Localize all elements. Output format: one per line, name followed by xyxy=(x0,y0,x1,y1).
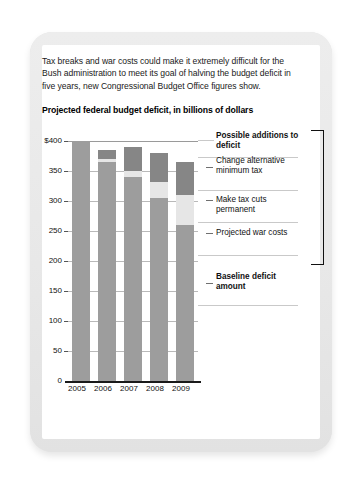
bar-2006-additions xyxy=(98,150,116,159)
y-tick-300 xyxy=(64,201,68,202)
chart-plot-area xyxy=(68,141,198,381)
leader-line-baseline xyxy=(206,283,213,284)
lede-paragraph: Tax breaks and war costs could make it e… xyxy=(42,55,304,92)
x-tick-label-2009: 2009 xyxy=(166,384,196,393)
y-tick-100 xyxy=(64,321,68,322)
bar-2008-tax-cuts xyxy=(150,182,168,198)
y-tick-label-150: 150 xyxy=(22,286,62,295)
bar-2008-baseline xyxy=(150,198,168,381)
bar-2009-tax-cuts xyxy=(176,195,194,225)
leader-line-war-costs xyxy=(206,233,213,234)
bar-2007-baseline xyxy=(124,177,142,381)
bar-2007 xyxy=(124,147,142,381)
bar-2007-tax-cuts xyxy=(124,171,142,177)
bar-2008-additions xyxy=(150,153,168,182)
y-tick-label-400: $400 xyxy=(22,136,62,145)
y-tick-label-50: 50 xyxy=(22,346,62,355)
y-tick-200 xyxy=(64,261,68,262)
separator-line-2 xyxy=(198,190,298,191)
x-axis-labels: 2005 2006 2007 2008 2009 xyxy=(62,384,208,398)
separator-line-4 xyxy=(198,255,298,256)
y-tick-label-0: 0 xyxy=(22,376,62,385)
bar-2006-tax-cuts xyxy=(98,159,116,162)
y-tick-50 xyxy=(64,351,68,352)
bar-2007-additions xyxy=(124,147,142,171)
bar-2008 xyxy=(150,153,168,381)
annotation-possible-additions: Possible additions to deficit xyxy=(216,131,302,151)
y-tick-label-250: 250 xyxy=(22,226,62,235)
chart-title: Projected federal budget deficit, in bil… xyxy=(42,105,304,115)
y-axis-labels: $400 350 300 250 200 150 100 50 0 xyxy=(22,141,62,381)
annotation-change-amt: Change alternative minimum tax xyxy=(216,156,298,176)
annotation-war-costs: Projected war costs xyxy=(216,228,298,238)
y-tick-150 xyxy=(64,291,68,292)
y-tick-400 xyxy=(64,141,68,142)
additions-bracket xyxy=(311,130,324,265)
y-tick-350 xyxy=(64,171,68,172)
leader-line-possible-additions xyxy=(198,140,214,141)
bar-2005-baseline xyxy=(72,141,90,381)
y-tick-label-350: 350 xyxy=(22,166,62,175)
x-axis-line xyxy=(65,381,201,383)
y-tick-250 xyxy=(64,231,68,232)
y-tick-label-200: 200 xyxy=(22,256,62,265)
separator-line-3 xyxy=(198,222,298,223)
separator-line-5 xyxy=(198,305,298,306)
bar-2006 xyxy=(98,150,116,381)
leader-line-tax-cuts xyxy=(206,200,213,201)
annotation-tax-cuts: Make tax cuts permanent xyxy=(216,195,298,215)
bar-2009-baseline xyxy=(176,225,194,381)
bar-2005 xyxy=(72,141,90,381)
y-tick-label-300: 300 xyxy=(22,196,62,205)
leader-line-change-amt xyxy=(206,167,213,168)
bar-2009 xyxy=(176,162,194,381)
bar-2009-additions xyxy=(176,162,194,195)
bar-2006-baseline xyxy=(98,162,116,381)
infographic-root: Tax breaks and war costs could make it e… xyxy=(0,0,361,504)
annotation-baseline: Baseline deficit amount xyxy=(216,272,286,292)
y-tick-label-100: 100 xyxy=(22,316,62,325)
